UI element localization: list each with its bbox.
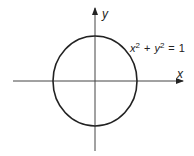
eq-x-exp: 2 — [136, 41, 141, 50]
eq-rhs: 1 — [179, 42, 185, 54]
eq-equals: = — [168, 42, 174, 54]
y-axis-label: y — [101, 7, 109, 21]
unit-circle-diagram: y x x2+y2=1 — [0, 0, 194, 156]
x-axis-label: x — [176, 67, 184, 81]
eq-plus: + — [144, 42, 150, 54]
equation-label: x2+y2=1 — [129, 41, 185, 54]
eq-y-exp: 2 — [160, 41, 165, 50]
